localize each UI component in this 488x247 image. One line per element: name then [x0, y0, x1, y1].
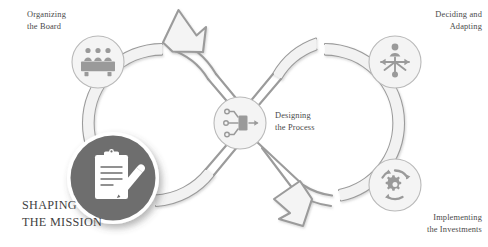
- label-shaping-the-mission: SHAPING THE MISSION: [22, 197, 102, 230]
- label-designing-the-process: Designing the Process: [275, 110, 351, 133]
- label-deciding-and-adapting: Deciding and Adapting: [390, 9, 482, 32]
- label-organizing-the-board: Organizing the Board: [27, 9, 107, 32]
- label-implementing-the-investments: Implementing the Investments: [382, 212, 482, 235]
- diagram-canvas: Organizing the Board Deciding and Adapti…: [0, 0, 488, 247]
